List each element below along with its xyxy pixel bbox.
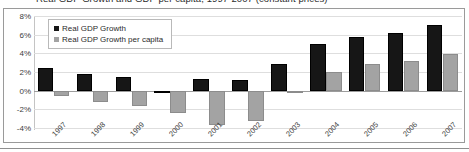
bar bbox=[116, 77, 132, 91]
bar-group bbox=[423, 16, 462, 128]
figure-bottom-rule bbox=[0, 148, 469, 149]
bar bbox=[365, 64, 381, 91]
bar bbox=[248, 91, 264, 122]
bar-group bbox=[306, 16, 345, 128]
bar bbox=[443, 54, 459, 90]
y-tick-label: 4% bbox=[5, 49, 31, 58]
bar bbox=[154, 91, 170, 93]
y-tick-label: -4% bbox=[5, 124, 31, 133]
bar bbox=[232, 80, 248, 90]
bar bbox=[427, 25, 443, 90]
bar-group bbox=[267, 16, 306, 128]
bar bbox=[170, 91, 186, 113]
bar bbox=[193, 79, 209, 90]
bar bbox=[388, 33, 404, 91]
bar bbox=[404, 61, 420, 91]
y-axis-tick-labels: 8%6%4%2%0%-2%-4% bbox=[0, 16, 31, 128]
bar bbox=[54, 91, 70, 97]
y-tick-label: -2% bbox=[5, 105, 31, 114]
bar-group bbox=[384, 16, 423, 128]
bar bbox=[287, 91, 303, 93]
bar bbox=[77, 74, 93, 91]
legend-label: Real GDP Growth bbox=[62, 24, 126, 33]
legend-item-real-gdp-growth-per-capita[interactable]: Real GDP Growth per capita bbox=[54, 34, 163, 45]
bar bbox=[132, 91, 148, 106]
bar-group bbox=[345, 16, 384, 128]
bar-group bbox=[190, 16, 229, 128]
chart-figure: Real GDP Growth and GDP per capita, 1997… bbox=[0, 0, 469, 152]
bar bbox=[349, 37, 365, 91]
bar bbox=[326, 72, 342, 91]
chart-title: Real GDP Growth and GDP per capita, 1997… bbox=[36, 0, 456, 4]
legend-label: Real GDP Growth per capita bbox=[62, 35, 163, 44]
bar bbox=[93, 91, 109, 102]
bar-group bbox=[229, 16, 268, 128]
legend-swatch-icon bbox=[54, 26, 59, 31]
y-tick-label: 8% bbox=[5, 12, 31, 21]
chart-legend: Real GDP Growth Real GDP Growth per capi… bbox=[48, 19, 172, 49]
bar bbox=[271, 64, 287, 91]
legend-swatch-icon bbox=[54, 37, 59, 42]
legend-item-real-gdp-growth[interactable]: Real GDP Growth bbox=[54, 23, 163, 34]
bar bbox=[310, 44, 326, 91]
y-tick-label: 6% bbox=[5, 30, 31, 39]
y-tick-label: 2% bbox=[5, 68, 31, 77]
y-tick-label: 0% bbox=[5, 86, 31, 95]
bar bbox=[38, 68, 54, 90]
